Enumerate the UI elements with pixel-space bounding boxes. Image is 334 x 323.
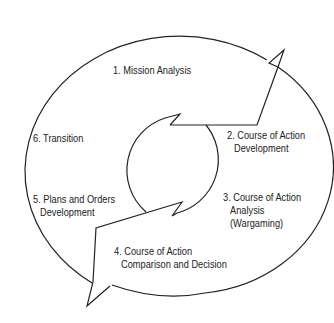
step-4-label-line-2: Comparison and Decision (114, 258, 227, 271)
step-5-plans-orders: 5. Plans and Orders Development (33, 193, 115, 219)
step-6-transition: 6. Transition (33, 132, 83, 145)
step-1-label: 1. Mission Analysis (113, 64, 191, 76)
step-3-label-line-1: 3. Course of Action (223, 191, 301, 204)
step-4-label-line-1: 4. Course of Action (114, 245, 227, 258)
step-6-label: 6. Transition (33, 132, 83, 144)
mdmp-cycle-diagram: 1. Mission Analysis 2. Course of Action … (0, 0, 334, 323)
upper-arrow-icon (170, 50, 284, 125)
step-2-label-line-2: Development (227, 142, 305, 155)
step-4-coa-comparison: 4. Course of Action Comparison and Decis… (114, 245, 227, 271)
outer-cycle-lower-arc (112, 285, 205, 296)
inner-cycle-right-arc (177, 125, 218, 213)
step-3-label-line-2: Analysis (223, 204, 301, 217)
step-3-label-line-3: (Wargaming) (223, 217, 301, 230)
step-3-coa-analysis: 3. Course of Action Analysis (Wargaming) (223, 191, 301, 230)
step-2-label-line-1: 2. Course of Action (227, 129, 305, 142)
step-2-coa-development: 2. Course of Action Development (227, 129, 305, 155)
step-1-mission-analysis: 1. Mission Analysis (113, 64, 191, 77)
inner-cycle-left-arc (127, 118, 165, 212)
cycle-arrows-graphic (0, 0, 334, 323)
inner-upper-notch (165, 114, 180, 125)
step-5-label-line-2: Development (33, 206, 115, 219)
step-5-label-line-1: 5. Plans and Orders (33, 193, 115, 206)
